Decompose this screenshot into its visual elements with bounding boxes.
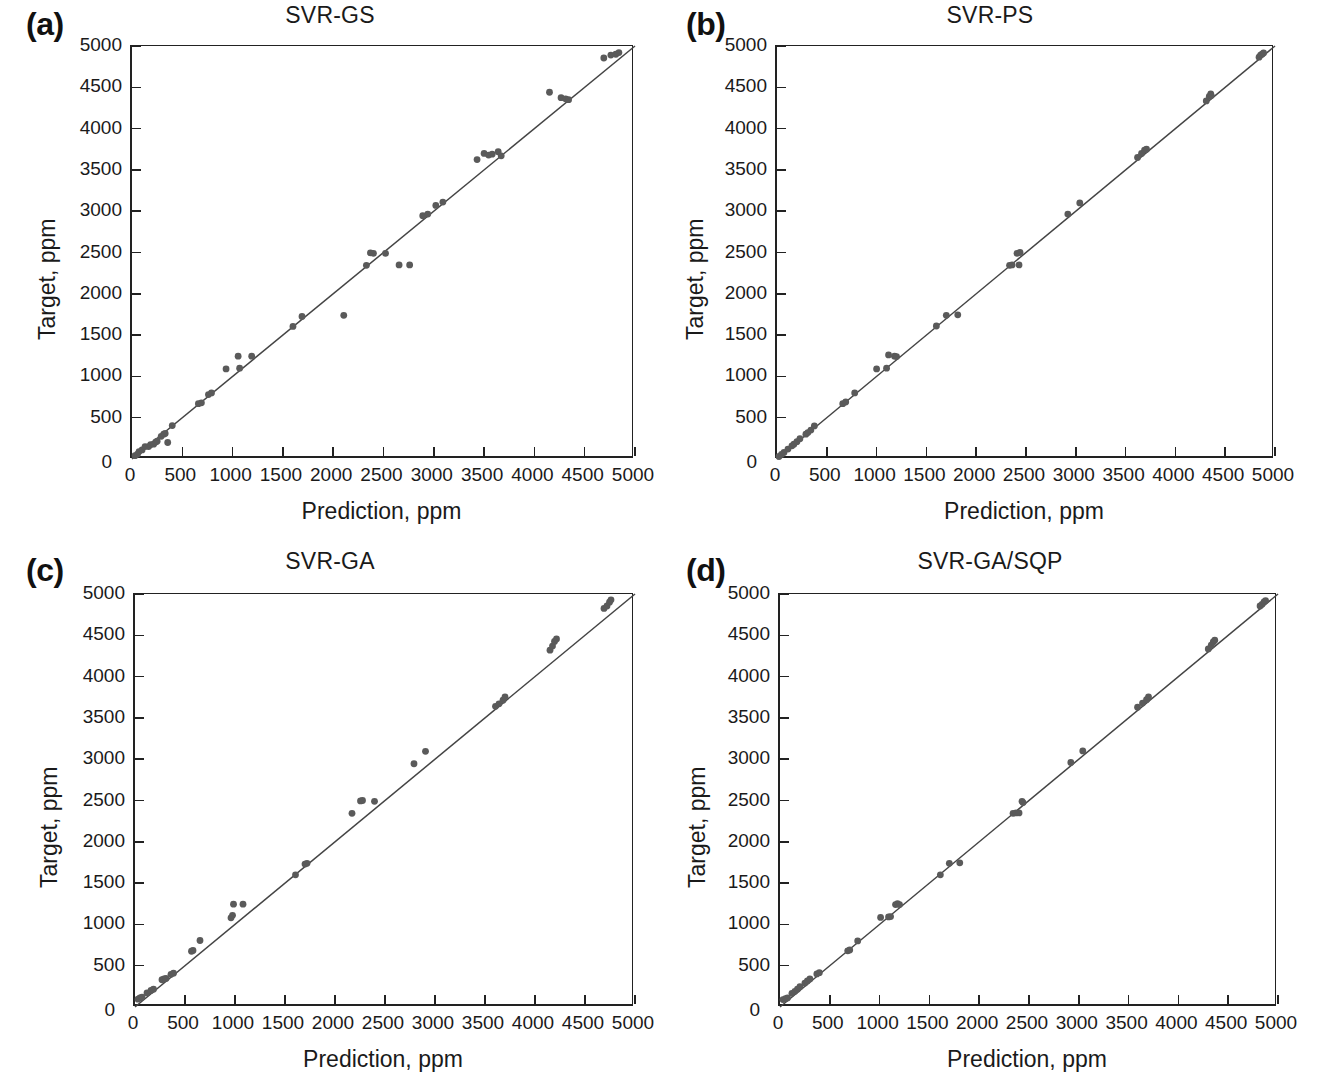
x-axis-tick-label: 4000 bbox=[512, 1012, 554, 1034]
data-point bbox=[553, 636, 560, 643]
data-point bbox=[299, 313, 306, 320]
y-axis-tick-label: 4000 bbox=[0, 665, 125, 687]
data-point bbox=[877, 914, 884, 921]
data-point bbox=[198, 399, 205, 406]
x-axis-tick bbox=[284, 995, 286, 1004]
data-point bbox=[1017, 249, 1024, 256]
scatter-canvas-c bbox=[135, 594, 632, 1004]
y-axis-tick bbox=[132, 210, 141, 212]
y-axis-tick-label: 3500 bbox=[660, 158, 767, 180]
y-axis-title-c: Target, ppm bbox=[36, 767, 63, 888]
x-axis-tick-label: 4000 bbox=[511, 464, 553, 486]
data-point bbox=[223, 366, 230, 373]
y-axis-tick bbox=[777, 293, 786, 295]
y-axis-tick bbox=[135, 924, 144, 926]
data-point bbox=[806, 976, 813, 983]
x-axis-tick-label: 1000 bbox=[212, 1012, 254, 1034]
data-point bbox=[371, 798, 378, 805]
data-point bbox=[943, 312, 950, 319]
y-axis-tick-label: 0 bbox=[0, 451, 112, 473]
x-axis-tick-label: 0 bbox=[773, 1012, 784, 1034]
x-axis-tick-label: 3500 bbox=[462, 1012, 504, 1034]
y-axis-tick bbox=[780, 635, 789, 637]
identity-reference-line bbox=[135, 594, 635, 1007]
panel-a: (a) SVR-GS Prediction, ppm Target, ppm 0… bbox=[0, 0, 660, 546]
y-axis-tick-label: 3000 bbox=[660, 747, 770, 769]
x-axis-tick-label: 5000 bbox=[1252, 464, 1294, 486]
data-point bbox=[290, 323, 297, 330]
y-axis-title-b: Target, ppm bbox=[682, 219, 709, 340]
y-axis-tick-label: 2500 bbox=[660, 789, 770, 811]
data-point bbox=[359, 797, 366, 804]
data-point bbox=[230, 901, 237, 908]
data-point bbox=[816, 969, 823, 976]
y-axis-tick bbox=[135, 965, 144, 967]
x-axis-tick bbox=[829, 995, 831, 1004]
y-axis-tick-label: 500 bbox=[0, 406, 122, 428]
data-point bbox=[150, 986, 157, 993]
x-axis-tick-label: 1500 bbox=[260, 464, 302, 486]
x-axis-tick bbox=[483, 447, 485, 456]
y-axis-tick-label: 500 bbox=[0, 954, 125, 976]
data-point bbox=[608, 596, 615, 603]
y-axis-title-a: Target, ppm bbox=[34, 219, 61, 340]
x-axis-tick bbox=[975, 447, 977, 456]
data-point bbox=[340, 312, 347, 319]
x-axis-tick bbox=[184, 995, 186, 1004]
y-axis-tick bbox=[135, 635, 144, 637]
y-axis-tick bbox=[135, 676, 144, 678]
x-axis-tick-label: 2500 bbox=[362, 1012, 404, 1034]
data-point bbox=[1079, 748, 1086, 755]
data-point bbox=[956, 859, 963, 866]
x-axis-title-b: Prediction, ppm bbox=[775, 498, 1273, 525]
x-axis-tick-label: 2000 bbox=[312, 1012, 354, 1034]
x-axis-tick-label: 1500 bbox=[262, 1012, 304, 1034]
y-axis-tick-label: 4500 bbox=[660, 75, 767, 97]
y-axis-tick bbox=[780, 800, 789, 802]
x-axis-title-a: Prediction, ppm bbox=[130, 498, 633, 525]
y-axis-tick bbox=[135, 841, 144, 843]
panel-title-c: SVR-GA bbox=[0, 548, 660, 575]
data-point bbox=[873, 366, 880, 373]
y-axis-tick bbox=[135, 882, 144, 884]
y-axis-tick bbox=[780, 758, 789, 760]
x-axis-title-c: Prediction, ppm bbox=[133, 1046, 633, 1073]
plot-area-d bbox=[778, 593, 1276, 1006]
data-point bbox=[1076, 200, 1083, 207]
x-axis-tick-label: 1500 bbox=[903, 464, 945, 486]
data-point bbox=[370, 250, 377, 257]
y-axis-tick bbox=[132, 293, 141, 295]
data-point bbox=[946, 860, 953, 867]
x-axis-tick-label: 3000 bbox=[1053, 464, 1095, 486]
x-axis-tick-label: 4000 bbox=[1155, 1012, 1197, 1034]
data-point bbox=[349, 810, 356, 817]
y-axis-tick-label: 2500 bbox=[0, 789, 125, 811]
x-axis-tick-label: 3500 bbox=[1102, 464, 1144, 486]
data-point bbox=[422, 748, 429, 755]
data-point bbox=[304, 860, 311, 867]
y-axis-tick-label: 5000 bbox=[0, 582, 125, 604]
y-axis-tick-label: 1000 bbox=[660, 912, 770, 934]
x-axis-tick bbox=[926, 447, 928, 456]
x-axis-tick bbox=[383, 447, 385, 456]
y-axis-tick bbox=[132, 252, 141, 254]
y-axis-tick bbox=[780, 924, 789, 926]
x-axis-tick-label: 3000 bbox=[411, 464, 453, 486]
data-point bbox=[1016, 809, 1023, 816]
x-axis-tick bbox=[1224, 447, 1226, 456]
y-axis-tick-label: 4500 bbox=[0, 623, 125, 645]
data-point bbox=[954, 311, 961, 318]
y-axis-tick-label: 2000 bbox=[0, 282, 122, 304]
data-point bbox=[883, 365, 890, 372]
x-axis-tick-label: 1000 bbox=[209, 464, 251, 486]
x-axis-tick bbox=[634, 447, 636, 456]
plot-area-a bbox=[130, 45, 633, 458]
x-axis-tick bbox=[1227, 995, 1229, 1004]
identity-reference-line bbox=[780, 594, 1278, 1007]
y-axis-tick bbox=[132, 376, 141, 378]
x-axis-tick-label: 1500 bbox=[906, 1012, 948, 1034]
x-axis-tick-label: 2000 bbox=[953, 464, 995, 486]
data-point bbox=[1016, 261, 1023, 268]
y-axis-tick bbox=[780, 841, 789, 843]
x-axis-tick-label: 4500 bbox=[1202, 464, 1244, 486]
